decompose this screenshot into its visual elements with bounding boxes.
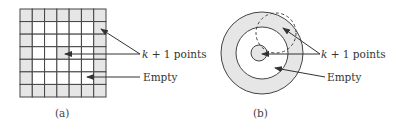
- figure: k + 1 points Empty (a) k + 1 points Empt…: [0, 0, 398, 124]
- arrow-points-to-corner: [101, 29, 140, 54]
- label-points-a: k + 1 points: [142, 48, 207, 60]
- grid-cell-empty: [81, 22, 93, 35]
- grid-cell-shaded: [94, 9, 106, 22]
- grid-cell-empty: [81, 47, 93, 60]
- grid: [20, 9, 106, 97]
- grid-cell-shaded: [32, 84, 44, 97]
- grid-cell-empty: [57, 22, 69, 35]
- grid-cell-shaded: [81, 9, 93, 22]
- caption-b: (b): [253, 107, 268, 119]
- grid-cell-empty: [57, 59, 69, 72]
- grid-cell-empty: [81, 59, 93, 72]
- grid-cell-shaded: [20, 47, 32, 60]
- caption-a: (a): [55, 107, 69, 119]
- grid-cell-shaded: [94, 72, 106, 85]
- grid-cell-empty: [32, 22, 44, 35]
- grid-cell-shaded: [20, 84, 32, 97]
- grid-cell-shaded: [81, 84, 93, 97]
- grid-cell-empty: [69, 47, 81, 60]
- grid-cell-shaded: [32, 9, 44, 22]
- grid-cell-empty: [45, 34, 57, 47]
- grid-cell-shaded: [45, 84, 57, 97]
- grid-cell-shaded: [94, 22, 106, 35]
- grid-cell-empty: [45, 72, 57, 85]
- grid-cell-shaded: [57, 9, 69, 22]
- grid-cell-shaded: [20, 22, 32, 35]
- grid-cell-empty: [32, 34, 44, 47]
- grid-cell-shaded: [20, 9, 32, 22]
- grid-cell-empty: [32, 47, 44, 60]
- grid-cell-shaded: [69, 84, 81, 97]
- grid-cell-empty: [32, 72, 44, 85]
- label-empty-a: Empty: [143, 71, 178, 83]
- grid-cell-shaded: [57, 84, 69, 97]
- grid-cell-shaded: [94, 47, 106, 60]
- grid-cell-empty: [57, 72, 69, 85]
- grid-cell-empty: [45, 22, 57, 35]
- grid-cell-empty: [69, 72, 81, 85]
- grid-cell-empty: [69, 22, 81, 35]
- grid-cell-empty: [45, 59, 57, 72]
- grid-cell-empty: [45, 47, 57, 60]
- grid-cell-shaded: [20, 34, 32, 47]
- panel-b: k + 1 points Empty (b): [221, 12, 386, 119]
- grid-cell-shaded: [57, 47, 69, 60]
- grid-cell-empty: [81, 72, 93, 85]
- grid-cell-shaded: [94, 84, 106, 97]
- panel-a: k + 1 points Empty (a): [20, 9, 207, 119]
- grid-cell-empty: [69, 34, 81, 47]
- grid-cell-shaded: [69, 9, 81, 22]
- grid-cell-empty: [69, 59, 81, 72]
- grid-cell-shaded: [94, 59, 106, 72]
- grid-cell-shaded: [20, 59, 32, 72]
- grid-cell-shaded: [20, 72, 32, 85]
- grid-cell-shaded: [45, 9, 57, 22]
- grid-cell-shaded: [94, 34, 106, 47]
- label-empty-b: Empty: [327, 71, 362, 83]
- label-points-b: k + 1 points: [321, 48, 386, 60]
- grid-cell-empty: [57, 34, 69, 47]
- grid-cell-empty: [32, 59, 44, 72]
- central-circle: [251, 45, 267, 61]
- grid-cell-empty: [81, 34, 93, 47]
